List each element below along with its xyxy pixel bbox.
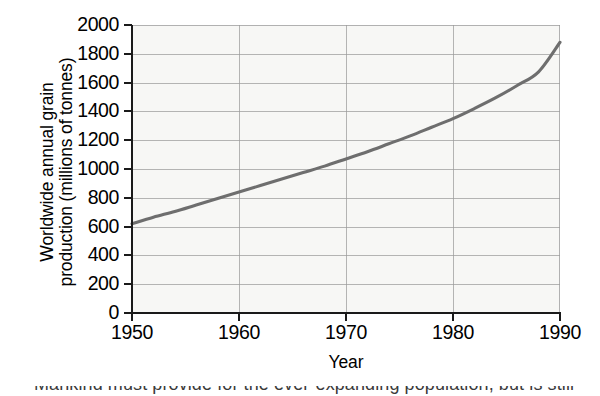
y-tick-label-600: 600 <box>30 217 126 237</box>
gridline-x-1980 <box>453 25 454 313</box>
cut-off-caption-text: Mankind must provide for the ever-expand… <box>34 386 574 395</box>
x-tick-mark-1950 <box>131 313 133 321</box>
y-tick-label-1000: 1000 <box>30 159 126 179</box>
y-tick-label-400: 400 <box>30 246 126 266</box>
y-tick-mark-2000 <box>124 24 132 26</box>
y-tick-mark-400 <box>124 254 132 256</box>
cut-off-caption: Mankind must provide for the ever-expand… <box>0 386 600 396</box>
plot-area <box>132 25 560 313</box>
grain-production-line-chart: Worldwide annual grain production (milli… <box>0 0 600 396</box>
x-axis-title: Year <box>132 352 560 373</box>
gridline-x-1960 <box>239 25 240 313</box>
y-tick-label-0: 0 <box>30 303 126 323</box>
y-tick-mark-1600 <box>124 82 132 84</box>
y-tick-label-1200: 1200 <box>30 130 126 150</box>
y-tick-mark-1000 <box>124 168 132 170</box>
y-tick-label-200: 200 <box>30 274 126 294</box>
x-tick-mark-1990 <box>559 313 561 321</box>
y-tick-label-1400: 1400 <box>30 102 126 122</box>
y-tick-mark-600 <box>124 226 132 228</box>
x-tick-label-1960: 1960 <box>218 323 260 343</box>
x-tick-mark-1960 <box>238 313 240 321</box>
y-tick-label-800: 800 <box>30 188 126 208</box>
y-tick-label-1600: 1600 <box>30 73 126 93</box>
y-tick-label-1800: 1800 <box>30 44 126 64</box>
y-tick-label-2000: 2000 <box>30 15 126 35</box>
y-tick-mark-1400 <box>124 110 132 112</box>
x-tick-label-1980: 1980 <box>432 323 474 343</box>
x-tick-mark-1980 <box>452 313 454 321</box>
x-tick-label-1990: 1990 <box>539 323 581 343</box>
x-tick-label-1950: 1950 <box>111 323 153 343</box>
x-tick-label-1970: 1970 <box>325 323 367 343</box>
y-tick-mark-1800 <box>124 53 132 55</box>
y-tick-mark-1200 <box>124 139 132 141</box>
y-tick-mark-800 <box>124 197 132 199</box>
y-tick-mark-200 <box>124 283 132 285</box>
x-tick-mark-1970 <box>345 313 347 321</box>
gridline-x-1970 <box>346 25 347 313</box>
